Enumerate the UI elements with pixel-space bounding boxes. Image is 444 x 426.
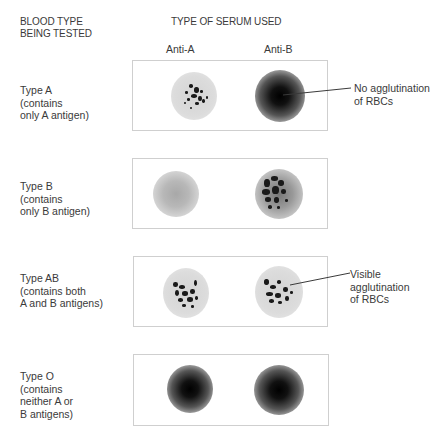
annotation-visible-agglutination: Visible agglutination of RBCs (350, 268, 410, 306)
annotation-no-agglutination: No agglutination of RBCs (354, 82, 430, 107)
